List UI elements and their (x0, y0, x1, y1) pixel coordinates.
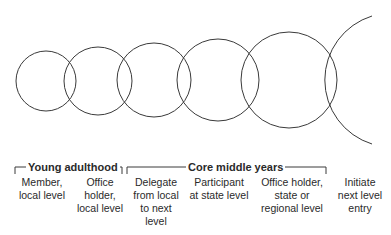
stage-circle-2 (64, 47, 132, 115)
group-label-young-adulthood: Young adulthood (26, 161, 120, 173)
stage-circle-3 (117, 43, 191, 117)
stage-circle-1 (16, 51, 76, 111)
stage-circle-5 (241, 32, 337, 128)
stage-arc-6 (325, 16, 372, 144)
group-label-core-middle-years: Core middle years (186, 161, 285, 173)
stage-label-5: Office holder, state or regional level (254, 176, 330, 215)
stage-label-6: Initiate next level entry (332, 176, 388, 215)
stage-label-4: Participant at state level (185, 176, 253, 202)
stage-label-3: Delegate from local to next level (128, 176, 184, 228)
stage-circle-4 (177, 39, 259, 121)
stage-label-1: Member, local level (14, 176, 70, 202)
stage-label-2: Office holder, local level (72, 176, 128, 215)
